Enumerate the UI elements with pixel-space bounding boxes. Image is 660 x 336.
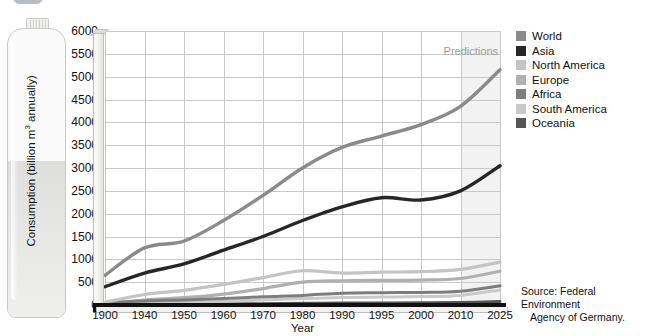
- series-line-world: [105, 70, 500, 275]
- plot-area: Predictions: [105, 31, 500, 305]
- predictions-label: Predictions: [444, 45, 498, 57]
- legend-item-label: Africa: [532, 88, 561, 100]
- x-axis-tick-label: 1950: [171, 309, 197, 321]
- gridline-vertical: [500, 31, 501, 305]
- legend-item-label: South America: [532, 103, 607, 115]
- legend-color-swatch: [516, 104, 526, 114]
- bottle-highlight: [11, 32, 18, 300]
- legend-item[interactable]: North America: [516, 59, 656, 71]
- legend-item[interactable]: Africa: [516, 88, 656, 100]
- legend-color-swatch: [516, 89, 526, 99]
- series-line-africa: [105, 286, 500, 303]
- legend-color-swatch: [516, 31, 526, 41]
- y-axis-title-exponent: 3: [23, 125, 32, 129]
- x-axis-title: Year: [105, 322, 500, 334]
- x-axis-tick-label: 2000: [408, 309, 434, 321]
- legend-item[interactable]: Oceania: [516, 117, 656, 129]
- x-axis-tick-label: 1900: [92, 309, 118, 321]
- source-note: Source: Federal Environment Agency of Ge…: [521, 285, 657, 324]
- legend-item-label: Europe: [532, 74, 569, 86]
- x-axis-tick-label: 1980: [290, 309, 316, 321]
- legend-color-swatch: [516, 75, 526, 85]
- legend-item-label: Asia: [532, 45, 554, 57]
- legend-item-label: North America: [532, 59, 605, 71]
- legend-item-label: World: [532, 30, 562, 42]
- legend-color-swatch: [516, 60, 526, 70]
- x-axis-tick-label: 1960: [211, 309, 237, 321]
- legend-item[interactable]: Asia: [516, 45, 656, 57]
- series-lines: [105, 31, 500, 305]
- x-axis-tick-label: 2010: [448, 309, 474, 321]
- source-line-1: Source: Federal Environment: [521, 285, 596, 310]
- x-axis-tick-label: 1970: [250, 309, 276, 321]
- x-axis-tick-label: 2025: [487, 309, 513, 321]
- y-axis-title: Consumption (billion m3 annually): [23, 51, 37, 271]
- x-axis-tick-label: 1990: [329, 309, 355, 321]
- legend-item[interactable]: Europe: [516, 74, 656, 86]
- legend-item[interactable]: World: [516, 30, 656, 42]
- legend: WorldAsiaNorth AmericaEuropeAfricaSouth …: [516, 30, 656, 132]
- x-axis-tick-label: 1995: [369, 309, 395, 321]
- organization-logo: [13, 0, 43, 4]
- y-axis-slab: [89, 29, 104, 307]
- page-title: WATER CONSUMPTION ACROSS THE WORLD: PROJ…: [54, 0, 439, 1]
- legend-color-swatch: [516, 46, 526, 56]
- chart-page: WATER CONSUMPTION ACROSS THE WORLD: PROJ…: [0, 0, 660, 336]
- legend-item-label: Oceania: [532, 117, 575, 129]
- page-header: WATER CONSUMPTION ACROSS THE WORLD: PROJ…: [0, 0, 660, 7]
- series-line-asia: [105, 166, 500, 287]
- x-axis-tick-label: 1940: [132, 309, 158, 321]
- legend-item[interactable]: South America: [516, 103, 656, 115]
- legend-color-swatch: [516, 118, 526, 128]
- source-line-2: Agency of Germany.: [521, 311, 657, 324]
